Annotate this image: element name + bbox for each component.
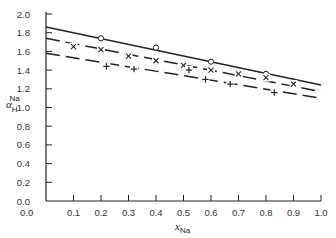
data-point-x bbox=[262, 74, 270, 82]
data-point-plus bbox=[270, 89, 278, 97]
y-tick-label: 1.2 bbox=[17, 83, 30, 94]
y-tick-label: 0.4 bbox=[17, 158, 30, 169]
x-tick-label: 0.3 bbox=[122, 207, 135, 218]
data-point-circle bbox=[153, 45, 158, 50]
y-tick-label: 1.8 bbox=[17, 27, 30, 38]
data-point-x bbox=[70, 43, 78, 51]
data-point-x bbox=[235, 70, 243, 78]
y-tick-label: 0.6 bbox=[17, 139, 30, 150]
data-point-x bbox=[207, 66, 215, 74]
data-point-x bbox=[290, 80, 298, 88]
y-tick-label: 2.0 bbox=[17, 9, 30, 20]
data-point-x bbox=[97, 46, 105, 54]
y-tick-label: 0.8 bbox=[17, 121, 30, 132]
x-tick-label: 0.0 bbox=[20, 207, 33, 218]
data-point-x bbox=[125, 52, 133, 60]
x-tick-label: 0.7 bbox=[232, 207, 245, 218]
y-tick-label: 1.6 bbox=[17, 46, 30, 57]
fit-line-circles bbox=[46, 27, 321, 85]
data-point-plus bbox=[130, 65, 138, 73]
y-tick-label: 0.0 bbox=[17, 196, 30, 207]
x-tick-label: 0.6 bbox=[204, 207, 217, 218]
chart-plot: 0.00.20.40.60.81.01.21.41.61.82.00.00.10… bbox=[0, 0, 336, 238]
y-tick-label: 1.0 bbox=[17, 102, 30, 113]
data-point-plus bbox=[202, 75, 210, 83]
x-tick-label: 0.1 bbox=[67, 207, 80, 218]
data-point-plus bbox=[185, 66, 193, 74]
x-tick-label: 1.0 bbox=[314, 207, 327, 218]
y-tick-label: 1.4 bbox=[17, 65, 30, 76]
x-tick-label: 0.5 bbox=[177, 207, 190, 218]
x-tick-label: 0.9 bbox=[287, 207, 300, 218]
data-point-circle bbox=[208, 59, 213, 64]
x-tick-label: 0.8 bbox=[259, 207, 272, 218]
x-tick-label: 0.2 bbox=[94, 207, 107, 218]
axes: 0.00.20.40.60.81.01.21.41.61.82.00.00.10… bbox=[17, 9, 328, 219]
x-tick-label: 0.4 bbox=[149, 207, 162, 218]
data-point-circle bbox=[98, 36, 103, 41]
data-point-plus bbox=[226, 80, 234, 88]
data-point-x bbox=[152, 57, 160, 65]
data-point-plus bbox=[103, 62, 111, 70]
x-axis-title: xNa bbox=[174, 220, 191, 235]
series-markers bbox=[70, 36, 298, 97]
y-tick-label: 0.2 bbox=[17, 177, 30, 188]
